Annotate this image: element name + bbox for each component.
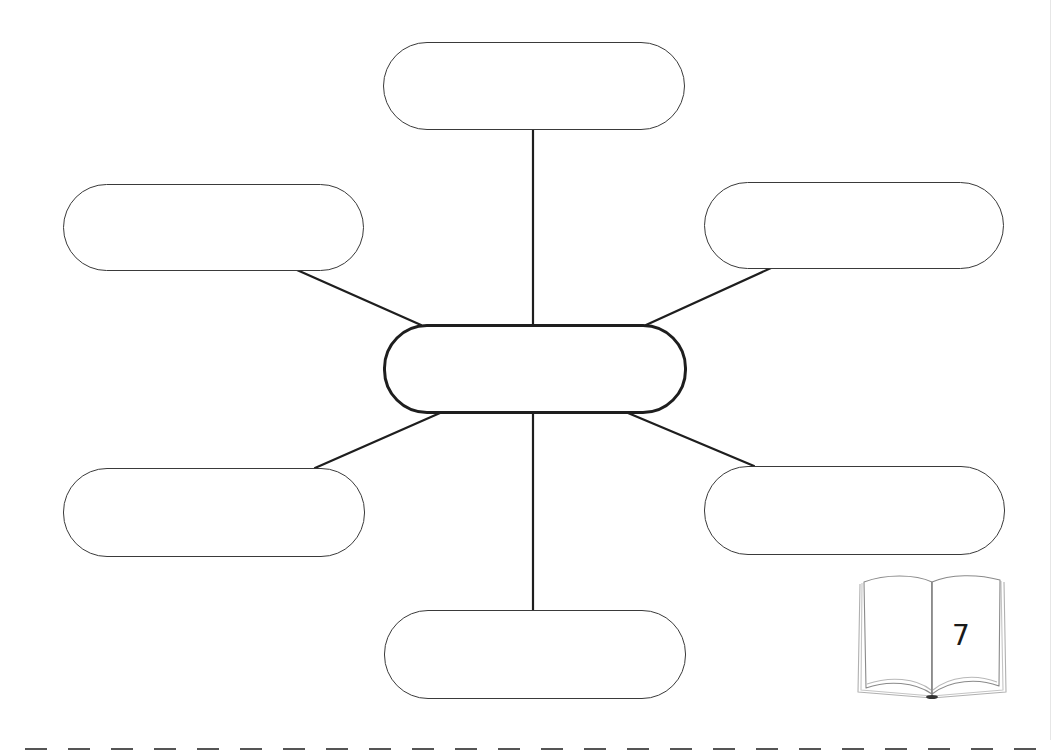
connector-bottom-left <box>315 413 440 468</box>
spider-diagram: 7 <box>0 0 1053 751</box>
page-edge-line <box>1050 0 1051 740</box>
dashed-cut-line <box>0 746 1053 751</box>
connector-top-left <box>297 270 421 325</box>
node-top[interactable] <box>383 42 685 130</box>
connector-bottom-right <box>628 413 754 466</box>
node-top-left[interactable] <box>63 184 364 271</box>
node-bottom[interactable] <box>384 610 686 699</box>
node-center[interactable] <box>383 324 687 414</box>
connector-top-right <box>646 268 771 325</box>
node-bottom-left[interactable] <box>63 468 365 557</box>
node-top-right[interactable] <box>704 182 1004 269</box>
node-bottom-right[interactable] <box>704 466 1005 555</box>
open-book-icon <box>850 570 1010 705</box>
page-number: 7 <box>952 622 970 650</box>
